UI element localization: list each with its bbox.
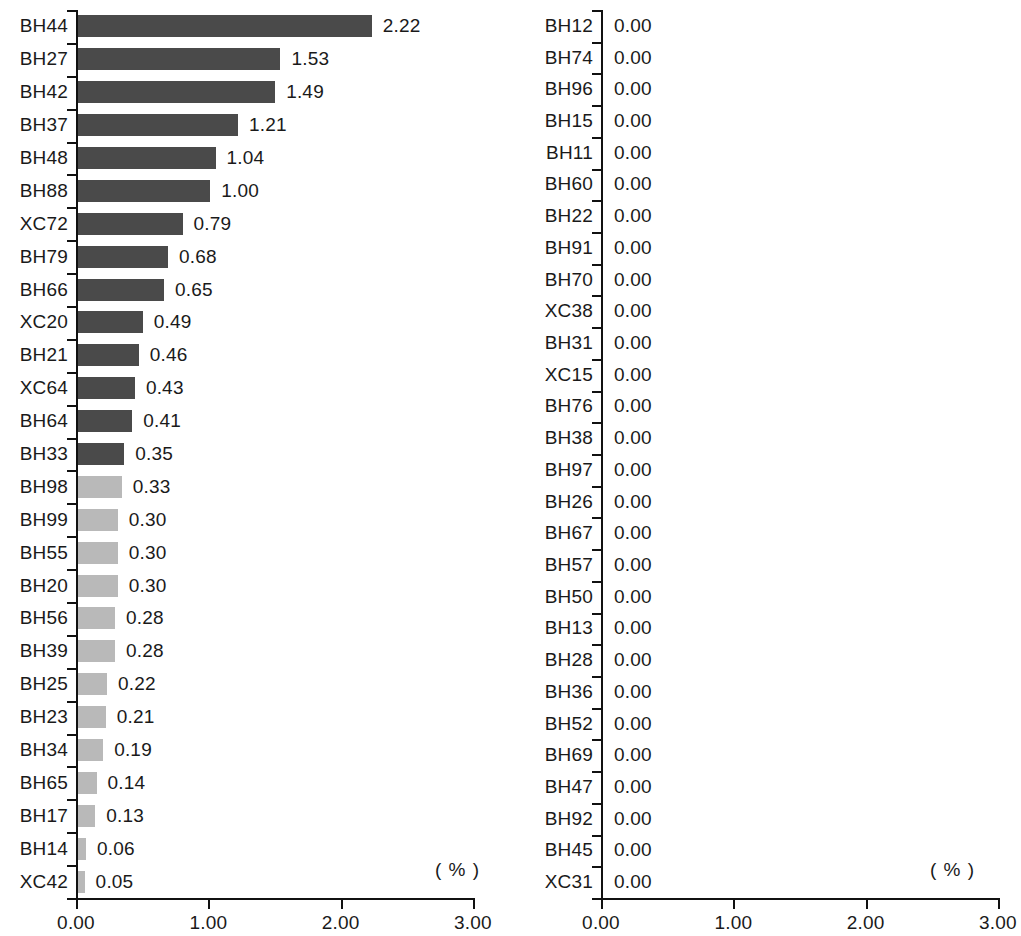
bar-row: [0, 865, 508, 898]
bar-value-label: 0.00: [614, 364, 652, 386]
bar-value-label: 0.30: [129, 509, 167, 531]
bar: [78, 311, 143, 333]
bar: [78, 377, 135, 399]
x-axis-tick-label: 0.00: [36, 912, 116, 934]
bar-value-label: 0.28: [126, 640, 164, 662]
bar-value-label: 0.00: [614, 205, 652, 227]
category-label: BH37: [0, 114, 68, 136]
category-label: XC31: [508, 871, 593, 893]
bar-value-label: 0.00: [614, 522, 652, 544]
bar: [78, 739, 103, 761]
category-label: XC72: [0, 213, 68, 235]
bar-row: [0, 536, 508, 569]
category-label: BH15: [508, 110, 593, 132]
category-label: BH14: [0, 838, 68, 860]
category-label: BH56: [0, 607, 68, 629]
category-label: BH44: [0, 15, 68, 37]
bar-value-label: 0.00: [614, 713, 652, 735]
bar: [78, 443, 124, 465]
category-label: BH92: [508, 808, 593, 830]
x-axis-tick: [341, 900, 343, 909]
category-label: BH27: [0, 48, 68, 70]
bar: [78, 542, 118, 564]
x-axis-tick-label: 1.00: [168, 912, 248, 934]
x-axis-tick: [601, 900, 603, 909]
category-label: XC42: [0, 871, 68, 893]
bar-value-label: 0.65: [175, 279, 213, 301]
category-label: XC64: [0, 377, 68, 399]
x-axis-tick-label: 1.00: [693, 912, 773, 934]
bar-value-label: 0.00: [614, 15, 652, 37]
bar: [78, 640, 115, 662]
bar: [78, 246, 168, 268]
bar: [78, 213, 183, 235]
bar-row: [0, 470, 508, 503]
bar-value-label: 0.49: [154, 311, 192, 333]
bar-value-label: 0.00: [614, 681, 652, 703]
x-axis-tick-label: 3.00: [958, 912, 1021, 934]
bar: [78, 476, 122, 498]
bar-row: [0, 306, 508, 339]
x-axis-tick: [208, 900, 210, 909]
x-axis-tick: [473, 900, 475, 909]
x-axis-tick-label: 3.00: [433, 912, 513, 934]
bar-value-label: 1.04: [227, 147, 265, 169]
bar: [78, 410, 132, 432]
y-axis-tick: [67, 898, 76, 900]
category-label: BH96: [508, 78, 593, 100]
bar-row: [0, 799, 508, 832]
category-label: BH50: [508, 586, 593, 608]
bar-value-label: 0.05: [96, 871, 134, 893]
chart-panel-left: 0.001.002.003.00( % )BH442.22BH271.53BH4…: [0, 0, 508, 936]
category-label: BH65: [0, 772, 68, 794]
category-label: BH21: [0, 344, 68, 366]
bar-chart-right: 0.001.002.003.00( % )BH120.00BH740.00BH9…: [508, 0, 1016, 936]
bar: [78, 772, 97, 794]
bar-value-label: 0.00: [614, 395, 652, 417]
bar-value-label: 0.00: [614, 427, 652, 449]
category-label: BH64: [0, 410, 68, 432]
category-label: XC38: [508, 300, 593, 322]
bar-value-label: 0.79: [194, 213, 232, 235]
bar: [78, 48, 280, 70]
category-label: BH66: [0, 279, 68, 301]
bar-row: [0, 635, 508, 668]
bar-value-label: 0.19: [114, 739, 152, 761]
x-axis-tick-label: 2.00: [826, 912, 906, 934]
bar-value-label: 0.00: [614, 776, 652, 798]
category-label: BH23: [0, 706, 68, 728]
x-axis-tick: [733, 900, 735, 909]
bar-value-label: 1.49: [286, 81, 324, 103]
bar-row: [0, 668, 508, 701]
bar-value-label: 0.13: [106, 805, 144, 827]
category-label: BH97: [508, 459, 593, 481]
bar-value-label: 1.00: [221, 180, 259, 202]
bar-value-label: 0.43: [146, 377, 184, 399]
bar-value-label: 0.00: [614, 744, 652, 766]
category-label: BH88: [0, 180, 68, 202]
bar-value-label: 0.68: [179, 246, 217, 268]
category-label: BH31: [508, 332, 593, 354]
x-axis-tick: [998, 900, 1000, 909]
bar-value-label: 0.30: [129, 542, 167, 564]
bar-value-label: 0.21: [117, 706, 155, 728]
x-axis-tick: [76, 900, 78, 909]
bar-value-label: 0.30: [129, 575, 167, 597]
bar-chart-left: 0.001.002.003.00( % )BH442.22BH271.53BH4…: [0, 0, 508, 936]
category-label: BH74: [508, 47, 593, 69]
bar-value-label: 0.33: [133, 476, 171, 498]
bar-row: [0, 503, 508, 536]
y-axis-tick: [592, 898, 601, 900]
bar: [78, 871, 85, 893]
bar-value-label: 0.00: [614, 269, 652, 291]
bar-row: [0, 405, 508, 438]
bar: [78, 114, 238, 136]
bar-value-label: 0.00: [614, 142, 652, 164]
category-label: BH26: [508, 491, 593, 513]
bar-value-label: 0.00: [614, 586, 652, 608]
bar: [78, 279, 164, 301]
x-axis-line: [76, 898, 475, 900]
category-label: BH36: [508, 681, 593, 703]
category-label: BH12: [508, 15, 593, 37]
bar-value-label: 0.00: [614, 871, 652, 893]
